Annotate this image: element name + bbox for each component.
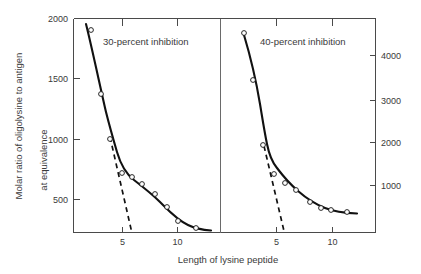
data-point [319,206,324,211]
x-tick-label-5-right: 5 [274,237,279,247]
y-tick-label-1000: 1000 [381,181,401,191]
data-point [251,78,256,83]
x-tick-label-10-right: 10 [327,237,337,247]
data-point [283,181,288,186]
left-x-ticks [123,19,178,233]
data-point [345,210,350,215]
data-point [242,31,247,36]
x-axis-title: Length of lysine peptide [178,254,278,265]
x-tick-label-10-left: 10 [172,237,182,247]
y-tick-label-1000: 1000 [48,135,68,145]
data-point [294,188,299,193]
data-points-right [242,31,350,215]
data-point [153,192,158,197]
y-tick-label-3000: 3000 [381,96,401,106]
panel-left: 2000 1500 1000 500 5 10 30-percent inhib… [48,14,211,248]
x-tick-label-5-left: 5 [120,237,125,247]
axes-frame [74,19,376,233]
data-point [140,182,145,187]
y-tick-label-2000: 2000 [48,14,68,24]
data-point [108,137,113,142]
chart-canvas: 2000 1500 1000 500 5 10 30-percent inhib… [0,0,421,274]
y-tick-label-500: 500 [53,195,68,205]
extrapolation-line-right [264,146,284,231]
figure-container: 2000 1500 1000 500 5 10 30-percent inhib… [0,0,421,274]
fitted-curve-left [86,24,211,231]
data-point [329,208,334,213]
y-tick-label-4000: 4000 [381,51,401,61]
right-x-ticks [277,19,333,233]
left-y-ticks [74,19,80,200]
data-point [308,200,313,205]
extrapolation-line-left [110,137,132,231]
panel-title-right: 40-percent inhibition [260,36,346,47]
data-point [261,143,266,148]
y-tick-label-2000: 2000 [381,138,401,148]
data-point [176,219,181,224]
data-point [272,172,277,177]
fitted-curve-right [244,35,357,214]
data-point [130,175,135,180]
right-y-ticks [370,56,376,186]
y-tick-label-1500: 1500 [48,74,68,84]
panel-title-left: 30-percent inhibition [103,36,189,47]
y-axis-title-line1: Molar ratio of oligolysine to antigen [13,53,24,200]
y-axis-title-line2: at equivalence [38,129,49,190]
data-point [120,171,125,176]
data-points-left [89,28,199,231]
data-point [194,226,199,231]
data-point [165,205,170,210]
data-point [89,28,94,33]
panel-right: 4000 3000 2000 1000 5 10 40-percent inhi… [242,19,401,248]
data-point [99,92,104,97]
